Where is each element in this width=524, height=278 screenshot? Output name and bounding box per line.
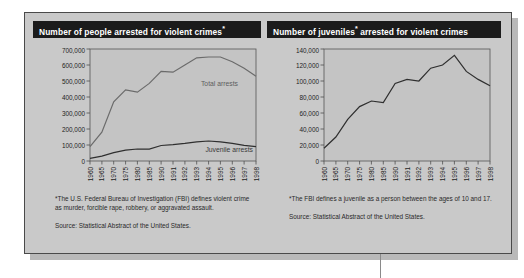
ytick-label: 40,000 [299,126,319,133]
figure-frame: Number of people arrested for violent cr… [24,12,512,254]
xtick-label: 1990 [158,167,165,182]
xtick-label: 1993 [193,167,200,182]
y-axis-juvenile-arrests: 140,000 120,000 100,000 80,000 60,000 40… [296,47,320,165]
notes-juvenile-arrests: *The FBI defines a juvenile as a person … [267,194,501,221]
xtick-label: 1970 [344,167,351,182]
xtick-label: 1960 [87,167,94,182]
xtick-label: 1985 [146,167,153,182]
xtick-label: 1980 [368,167,375,182]
panel-title-juvenile-arrests-pre: Number of juveniles [273,27,355,37]
xtick-label: 1994 [205,167,212,182]
xtick-label: 1997 [241,167,248,182]
xtick-label: 1995 [217,167,224,182]
panel-title-total-arrests-asterisk: * [222,25,225,32]
y-ticks-juvenile-arrests [321,49,325,161]
xtick-label: 1992 [415,167,422,182]
xtick-label: 1993 [427,167,434,182]
ytick-label: 100,000 [296,78,320,85]
panel-title-total-arrests-text: Number of people arrested for violent cr… [39,27,222,37]
xtick-label: 1997 [475,167,482,182]
y-axis-total-arrests: 700,000 600,000 500,000 400,000 300,000 … [62,47,86,165]
xtick-label: 1985 [380,167,387,182]
chart-total-arrests-svg: 700,000 600,000 500,000 400,000 300,000 … [33,42,261,192]
ytick-label: 600,000 [62,62,86,69]
xtick-label: 1965 [98,167,105,182]
ytick-label: 300,000 [62,110,86,117]
panel-juvenile-arrests: Number of juveniles* arrested for violen… [267,21,501,247]
y-ticks-total-arrests [87,49,91,161]
panel-title-total-arrests: Number of people arrested for violent cr… [33,21,261,38]
xtick-label: 1970 [110,167,117,182]
source-total-arrests: Source: Statistical Abstract of the Unit… [55,221,257,230]
figure-root: Number of people arrested for violent cr… [0,0,524,278]
chart-juvenile-arrests: 140,000 120,000 100,000 80,000 60,000 40… [267,42,501,192]
xtick-label: 1975 [122,167,129,182]
ytick-label: 60,000 [299,110,319,117]
ytick-label: 700,000 [62,47,86,54]
ytick-label: 120,000 [296,62,320,69]
series-label-juvenile-arrests: Juvenile arrests [205,146,253,153]
xtick-label: 1975 [356,167,363,182]
x-axis-juvenile-arrests: 1960 1965 1970 1975 1980 1985 1990 1991 … [321,167,494,182]
source-juvenile-arrests: Source: Statistical Abstract of the Unit… [289,212,497,221]
series-label-total-arrests: Total arrests [201,80,239,87]
xtick-label: 1994 [439,167,446,182]
ytick-label: 0 [81,158,85,165]
chart-juvenile-arrests-svg: 140,000 120,000 100,000 80,000 60,000 40… [267,42,501,192]
ytick-label: 140,000 [296,47,320,54]
footnote-total-arrests: *The U.S. Federal Bureau of Investigatio… [55,194,257,212]
xtick-label: 1998 [253,167,260,182]
panel-title-juvenile-arrests: Number of juveniles* arrested for violen… [267,21,501,38]
chart-total-arrests: 700,000 600,000 500,000 400,000 300,000 … [33,42,261,192]
ytick-label: 20,000 [299,142,319,149]
xtick-label: 1996 [229,167,236,182]
xtick-label: 1965 [332,167,339,182]
xtick-label: 1996 [463,167,470,182]
notes-total-arrests: *The U.S. Federal Bureau of Investigatio… [33,194,261,231]
x-ticks-juvenile-arrests [324,161,490,165]
xtick-label: 1998 [487,167,494,182]
ytick-label: 200,000 [62,126,86,133]
xtick-label: 1980 [134,167,141,182]
panel-total-arrests: Number of people arrested for violent cr… [33,21,261,247]
panel-title-juvenile-arrests-post: arrested for violent crimes [358,27,468,37]
ytick-label: 400,000 [62,94,86,101]
xtick-label: 1992 [181,167,188,182]
xtick-label: 1995 [451,167,458,182]
x-ticks-total-arrests [90,161,256,165]
xtick-label: 1991 [404,167,411,182]
xtick-label: 1990 [392,167,399,182]
callout-leader-line [380,254,381,278]
ytick-label: 80,000 [299,94,319,101]
xtick-label: 1991 [170,167,177,182]
xtick-label: 1960 [321,167,328,182]
panels-container: Number of people arrested for violent cr… [25,13,511,253]
ytick-label: 100,000 [62,142,86,149]
ytick-label: 500,000 [62,78,86,85]
footnote-juvenile-arrests: *The FBI defines a juvenile as a person … [289,194,497,203]
x-axis-total-arrests: 1960 1965 1970 1975 1980 1985 1990 1991 … [87,167,260,182]
plot-area-juvenile-arrests [324,49,490,161]
ytick-label: 0 [315,158,319,165]
